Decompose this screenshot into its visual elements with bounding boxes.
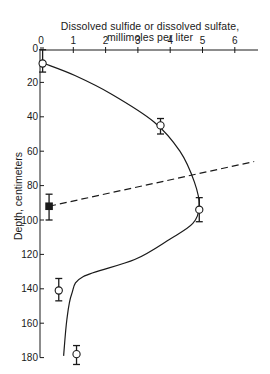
y-tick-label: 180 <box>21 352 38 363</box>
y-tick-label: 80 <box>27 180 39 191</box>
y-tick-label: 100 <box>21 215 38 226</box>
x-tick-label: 3 <box>135 35 141 46</box>
x-tick-label: 4 <box>167 35 173 46</box>
y-tick-label: 60 <box>27 146 39 157</box>
x-tick-label: 0 <box>38 35 44 46</box>
data-point <box>45 194 53 220</box>
open-circle-marker <box>39 60 46 67</box>
chart-plot: 0123456020406080100120140160180 <box>0 0 270 374</box>
data-point <box>157 119 164 134</box>
data-point <box>73 346 80 365</box>
x-tick-label: 5 <box>200 35 206 46</box>
y-tick-label: 120 <box>21 249 38 260</box>
y-tick-label: 160 <box>21 318 38 329</box>
sulfate-dashed-line <box>49 162 254 207</box>
open-circle-marker <box>157 122 164 129</box>
y-tick-label: 40 <box>27 111 39 122</box>
open-circle-marker <box>196 206 203 213</box>
open-circle-marker <box>55 287 62 294</box>
filled-square-marker <box>45 202 53 210</box>
data-point <box>55 278 62 300</box>
y-tick-label: 0 <box>32 43 38 54</box>
y-tick-label: 140 <box>21 283 38 294</box>
y-tick-label: 20 <box>27 77 39 88</box>
curves <box>44 63 254 355</box>
x-tick-label: 2 <box>103 35 109 46</box>
x-tick-label: 6 <box>232 35 238 46</box>
open-circle-marker <box>73 351 80 358</box>
axes: 0123456020406080100120140160180 <box>21 35 258 363</box>
sulfide-curve <box>44 63 199 355</box>
markers <box>39 50 203 365</box>
x-tick-label: 1 <box>71 35 77 46</box>
